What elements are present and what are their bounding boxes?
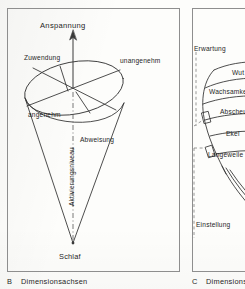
label-abweisung: Abweisung (80, 137, 114, 144)
cone-apex-point (72, 242, 75, 245)
label-angenehm: angenehm (28, 112, 61, 119)
label-abscheu: Abscheu (220, 109, 245, 116)
caption-c-letter: C (192, 277, 206, 286)
radial-tick-abweisung (76, 92, 90, 113)
label-aktivierungsniveau: Aktivierungsniveau (69, 147, 76, 206)
cone-c-arc-1 (205, 78, 245, 88)
guide-dash-tick-2 (194, 120, 203, 126)
label-anspannung: Anspannung (40, 22, 86, 30)
cone-left-slant (25, 98, 73, 243)
cone-c-arc-2 (203, 96, 245, 104)
caption-panel-c: CDimensions (192, 277, 245, 286)
label-unangenehm: unangenehm (120, 58, 161, 65)
radial-tick-zuwendung (60, 66, 68, 91)
label-einstellung: Einstellung (196, 222, 230, 229)
caption-b-letter: B (7, 277, 21, 286)
axis-diameter-2 (33, 68, 116, 110)
label-wut: Wut (232, 70, 244, 77)
label-langeweile: Langeweile (208, 152, 243, 159)
cone-right-slant (73, 103, 124, 243)
label-ekel: Ekel (226, 131, 240, 138)
caption-c-text: Dimensions (206, 277, 245, 286)
caption-b-text: Dimensionsachsen (21, 277, 87, 286)
label-schlaf: Schlaf (59, 253, 81, 260)
cone-c-slant-1 (222, 166, 245, 244)
caption-panel-b: BDimensionsachsen (7, 277, 87, 286)
label-wachsamkeit: Wachsamkeit (209, 89, 245, 96)
cone-c-slant-2 (226, 168, 245, 246)
label-erwartung: Erwartung (194, 46, 226, 53)
cone-c-slant-3 (230, 170, 245, 248)
label-zuwendung: Zuwendung (24, 55, 60, 62)
